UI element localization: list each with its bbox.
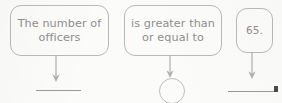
phrase-line-1: 65. — [246, 24, 263, 37]
down-arrow-icon — [247, 52, 257, 80]
scan-artifact-mark — [274, 86, 278, 92]
phrase-box-subject[interactable]: The number of officers — [10, 5, 109, 56]
phrase-line-1: is greater than — [131, 17, 215, 31]
phrase-line-2: officers — [18, 31, 102, 45]
answer-blank-variable[interactable] — [36, 90, 81, 91]
worksheet-diagram: The number of officers is greater than o… — [0, 0, 282, 103]
phrase-box-comparison-text: is greater than or equal to — [131, 17, 215, 45]
phrase-box-value[interactable]: 65. — [236, 8, 273, 53]
down-arrow-icon — [51, 55, 61, 83]
phrase-box-subject-text: The number of officers — [18, 17, 102, 45]
answer-circle-operator[interactable] — [159, 78, 185, 103]
phrase-line-2: or equal to — [131, 31, 215, 45]
down-arrow-icon — [165, 55, 175, 79]
answer-blank-number[interactable] — [228, 91, 275, 92]
phrase-line-1: The number of — [18, 17, 102, 31]
phrase-box-comparison[interactable]: is greater than or equal to — [124, 5, 222, 56]
